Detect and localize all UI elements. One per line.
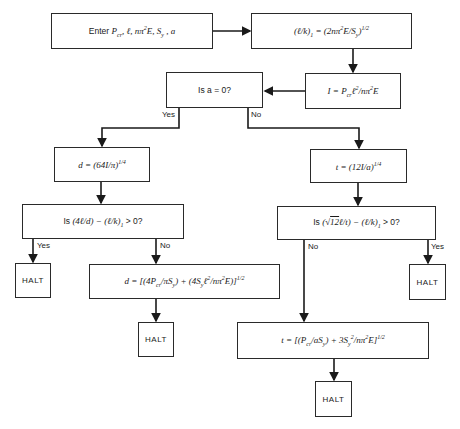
d-johnson-box: d = [(4Pcr/πSy) + (4Syℓ2/nπ2E)]1/2 — [89, 264, 280, 299]
t-johnson-formula: t = [(Pcr/aSy) + 3Sy2/nπ2E]1/2 — [281, 334, 385, 347]
label-a-yes: Yes — [162, 110, 175, 119]
t-johnson-box: t = [(Pcr/aSy) + 3Sy2/nπ2E]1/2 — [237, 322, 429, 359]
input-text: Enter — [89, 26, 109, 36]
halt-box-4: HALT — [315, 381, 352, 417]
label-t-no: No — [308, 242, 318, 251]
decision-t-text: Is (√12ℓ/t) − (ℓ/k)1 > 0? — [313, 217, 400, 229]
halt-text: HALT — [22, 276, 44, 285]
decision-d-text: Is (4ℓ/d) − (ℓ/k)1 > 0? — [63, 216, 142, 228]
slenderness-box: (ℓ/k)1 = (2nπ2E/Sy)1/2 — [251, 13, 412, 49]
input-box: Enter Pcr, ℓ, nπ2E, Sy , a — [51, 13, 213, 49]
halt-box-1: HALT — [15, 263, 51, 298]
label-a-no: No — [251, 110, 261, 119]
decision-a-text: Is a = 0? — [198, 85, 231, 95]
d-johnson-formula: d = [(4Pcr/πSy) + (4Syℓ2/nπ2E)]1/2 — [125, 275, 245, 288]
inertia-box: I = Pcrℓ2/nπ2E — [305, 73, 401, 109]
decision-d-box: Is (4ℓ/d) − (ℓ/k)1 > 0? — [22, 204, 184, 239]
input-vars: Pcr, ℓ, nπ2E, Sy , a — [112, 25, 176, 38]
decision-a-box: Is a = 0? — [166, 72, 263, 108]
t-initial-formula: t = (12I/a)1/4 — [336, 161, 382, 172]
halt-box-3: HALT — [409, 264, 446, 300]
inertia-formula: I = Pcrℓ2/nπ2E — [328, 85, 379, 98]
halt-text: HALT — [145, 335, 167, 344]
d-initial-box: d = (64I/π)1/4 — [54, 147, 150, 182]
halt-text: HALT — [417, 278, 439, 287]
label-d-no: No — [160, 241, 170, 250]
t-initial-box: t = (12I/a)1/4 — [310, 149, 407, 183]
halt-text: HALT — [323, 395, 345, 404]
slenderness-formula: (ℓ/k)1 = (2nπ2E/Sy)1/2 — [294, 25, 369, 38]
d-initial-formula: d = (64I/π)1/4 — [78, 159, 126, 170]
label-d-yes: Yes — [37, 241, 50, 250]
label-t-yes: Yes — [431, 242, 444, 251]
decision-t-box: Is (√12ℓ/t) − (ℓ/k)1 > 0? — [277, 206, 436, 240]
halt-box-2: HALT — [138, 322, 174, 357]
